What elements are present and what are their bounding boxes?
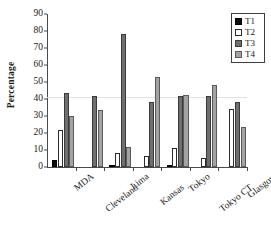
legend-swatch-icon	[235, 40, 242, 47]
bar-t3-kansas	[149, 102, 154, 167]
bar-t4-tokyo	[183, 95, 188, 167]
bar-group	[81, 14, 103, 167]
bar-group	[52, 14, 74, 167]
bar-t4-glasgow	[241, 127, 246, 167]
legend-item-t3[interactable]: T3	[235, 38, 262, 49]
legend-item-t2[interactable]: T2	[235, 27, 262, 38]
y-tick-mark	[44, 14, 47, 15]
bar-t1-tokyo	[167, 165, 172, 167]
y-tick-mark	[44, 150, 47, 151]
legend-item-t1[interactable]: T1	[235, 16, 262, 27]
bars-layer	[48, 14, 247, 167]
bar-group	[167, 14, 189, 167]
legend-swatch-icon	[235, 51, 242, 58]
legend-swatch-icon	[235, 29, 242, 36]
y-axis-title-text: Percentage	[6, 62, 16, 109]
bar-t2-glasgow	[229, 109, 234, 167]
bar-t3-cleveland	[92, 96, 97, 167]
y-tick-mark	[44, 65, 47, 66]
bar-t4-lima	[126, 147, 131, 167]
legend-item-label: T4	[245, 50, 255, 59]
bar-t4-tokyo-ct	[212, 85, 217, 167]
y-axis-title: Percentage	[2, 0, 20, 170]
plot-area: 0102030405060708090	[47, 14, 247, 167]
bar-t1-lima	[109, 165, 114, 167]
y-tick-mark	[44, 167, 47, 168]
bar-group	[138, 14, 160, 167]
x-tick-label: MDA	[72, 172, 95, 193]
bar-t3-tokyo-ct	[206, 96, 211, 167]
bar-t2-tokyo-ct	[201, 158, 206, 167]
x-tick-label: Tokyo	[187, 172, 212, 194]
bar-t3-mda	[64, 93, 69, 167]
bar-group	[109, 14, 131, 167]
y-tick-mark	[44, 82, 47, 83]
bar-chart: Percentage 0102030405060708090 MDAClevel…	[0, 0, 271, 225]
bar-t3-lima	[121, 34, 126, 167]
bar-t4-kansas	[155, 77, 160, 167]
bar-t2-tokyo	[172, 148, 177, 167]
bar-t1-mda	[52, 160, 57, 167]
bar-t2-mda	[58, 130, 63, 167]
bar-group	[195, 14, 217, 167]
y-tick-mark	[44, 48, 47, 49]
x-axis-labels: MDAClevelandLimaKansasTokyoTokyo CTGlasg…	[47, 170, 257, 225]
bar-t2-kansas	[144, 156, 149, 167]
y-tick-mark	[44, 99, 47, 100]
bar-t4-mda	[69, 116, 74, 167]
legend-item-label: T1	[245, 17, 255, 26]
bar-t4-cleveland	[98, 110, 103, 167]
legend-item-label: T3	[245, 39, 255, 48]
bar-t2-lima	[115, 153, 120, 167]
x-tick-label: Kansas	[159, 183, 186, 207]
y-tick-mark	[44, 133, 47, 134]
y-tick-mark	[44, 31, 47, 32]
bar-t3-glasgow	[235, 102, 240, 167]
legend-swatch-icon	[235, 18, 242, 25]
bar-t3-tokyo	[178, 96, 183, 167]
x-axis-line	[47, 167, 247, 168]
legend-item-t4[interactable]: T4	[235, 49, 262, 60]
chart-legend: T1T2T3T4	[231, 13, 265, 63]
y-tick-mark	[44, 116, 47, 117]
legend-item-label: T2	[245, 28, 255, 37]
